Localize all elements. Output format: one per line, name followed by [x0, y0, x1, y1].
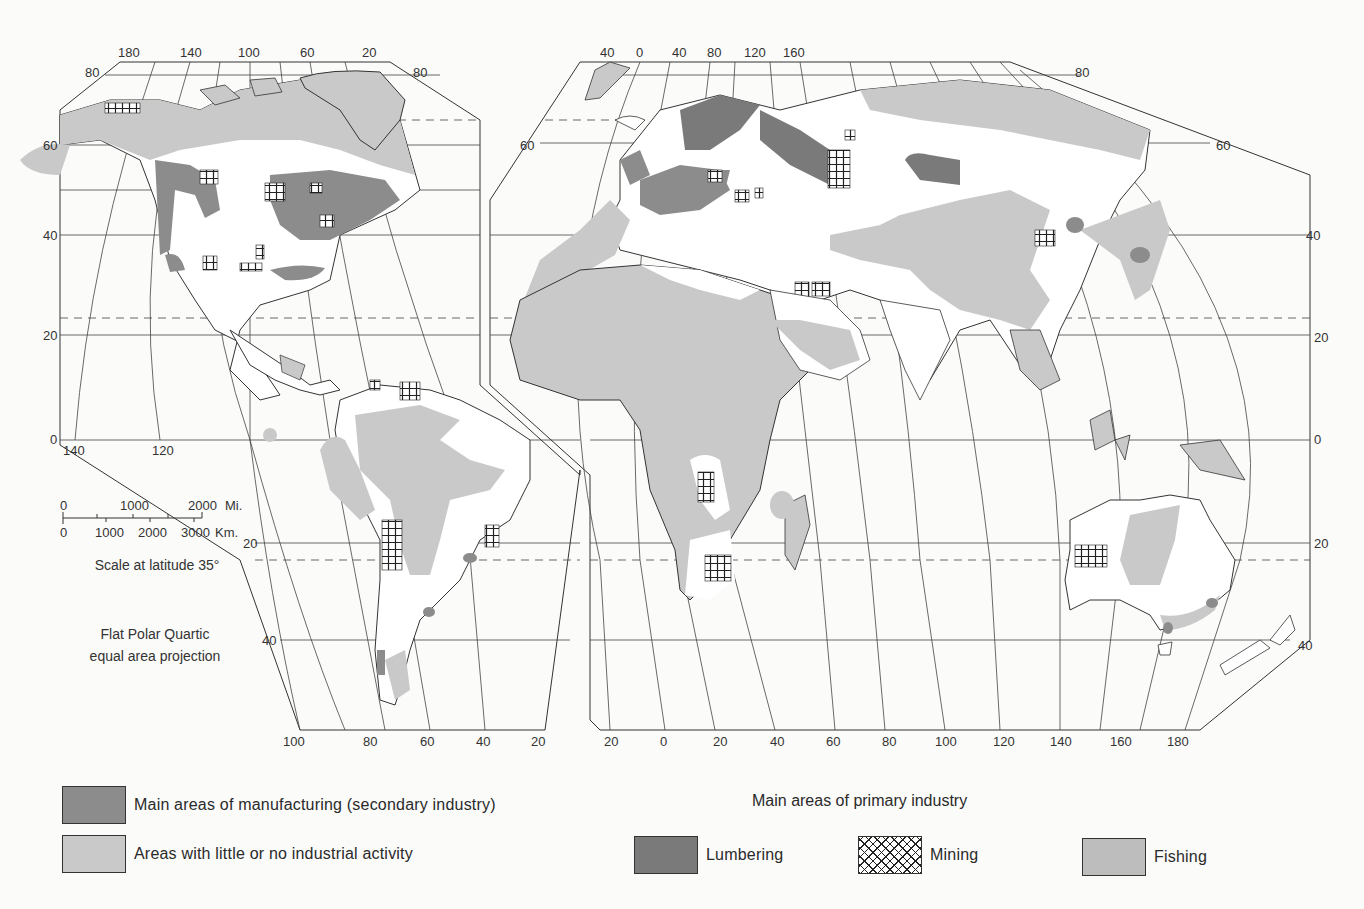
lon-label: 40 — [600, 45, 614, 60]
lon-label: 120 — [152, 443, 174, 458]
lon-label: 180 — [118, 45, 140, 60]
lat-label: 20 — [43, 328, 57, 343]
lon-label: 80 — [882, 734, 896, 749]
lon-label: 160 — [783, 45, 805, 60]
mining-swatch — [858, 836, 922, 874]
lat-label: 40 — [1298, 638, 1312, 653]
lon-label: 140 — [180, 45, 202, 60]
lon-label: 120 — [744, 45, 766, 60]
lon-label: 40 — [672, 45, 686, 60]
primary-industry-heading: Main areas of primary industry — [752, 792, 967, 810]
lon-label: 60 — [420, 734, 434, 749]
legend-label: Lumbering — [706, 846, 783, 864]
lon-label: 0 — [660, 734, 667, 749]
lon-label: 40 — [476, 734, 490, 749]
lat-label: 40 — [1306, 228, 1320, 243]
scale-mi-unit: Mi. — [225, 498, 242, 513]
lon-label: 60 — [300, 45, 314, 60]
lat-label: 60 — [520, 138, 534, 153]
legend-item-manufacturing: Main areas of manufacturing (secondary i… — [62, 786, 496, 824]
scale-mi-tick: 0 — [60, 498, 67, 513]
legend-item-fishing: Fishing — [1082, 838, 1207, 876]
legend-item-little-activity: Areas with little or no industrial activ… — [62, 835, 413, 873]
lon-label: 40 — [770, 734, 784, 749]
lon-label: 20 — [604, 734, 618, 749]
scale-km-unit: Km. — [215, 525, 238, 540]
legend-item-mining: Mining — [858, 836, 978, 874]
lon-label: 120 — [993, 734, 1015, 749]
projection-note-line2: equal area projection — [70, 648, 240, 664]
lat-label: 80 — [85, 65, 99, 80]
lon-label: 0 — [636, 45, 643, 60]
lat-label: 20 — [243, 536, 257, 551]
scale-km-tick: 0 — [60, 525, 67, 540]
lon-label: 80 — [363, 734, 377, 749]
lat-label: 40 — [262, 633, 276, 648]
lon-label: 60 — [826, 734, 840, 749]
legend-label: Fishing — [1154, 848, 1207, 866]
manufacturing-swatch — [62, 786, 126, 824]
scale-km-tick: 1000 — [95, 525, 124, 540]
scale-bar: 0 1000 2000 Mi. 0 1000 2000 3000 Km. — [60, 498, 242, 540]
east-panel — [490, 62, 1310, 730]
little-activity-swatch — [62, 835, 126, 873]
lat-label: 60 — [43, 138, 57, 153]
lat-label: 40 — [43, 228, 57, 243]
legend-item-lumbering: Lumbering — [634, 836, 783, 874]
lon-label: 100 — [935, 734, 957, 749]
scale-mi-tick: 1000 — [120, 498, 149, 513]
scale-caption: Scale at latitude 35° — [72, 557, 242, 573]
legend-label: Main areas of manufacturing (secondary i… — [134, 796, 496, 814]
lat-label: 80 — [413, 65, 427, 80]
scale-km-tick: 2000 — [138, 525, 167, 540]
lon-label: 20 — [713, 734, 727, 749]
lat-label: 20 — [1314, 536, 1328, 551]
legend-label: Areas with little or no industrial activ… — [134, 845, 413, 863]
lon-label: 140 — [1050, 734, 1072, 749]
lon-label: 100 — [238, 45, 260, 60]
lat-label: 0 — [1314, 432, 1321, 447]
world-industry-map: 180 140 100 60 20 80 80 60 40 20 0 140 1… — [0, 0, 1364, 760]
lon-label: 100 — [283, 734, 305, 749]
lat-label: 20 — [1314, 330, 1328, 345]
lat-label: 60 — [1216, 138, 1230, 153]
scale-km-tick: 3000 — [181, 525, 210, 540]
projection-note-line1: Flat Polar Quartic — [70, 626, 240, 642]
lon-label: 20 — [531, 734, 545, 749]
lon-label: 20 — [362, 45, 376, 60]
lumbering-swatch — [634, 836, 698, 874]
lon-label: 80 — [707, 45, 721, 60]
lon-label: 180 — [1167, 734, 1189, 749]
legend-label: Mining — [930, 846, 978, 864]
lon-label: 160 — [1110, 734, 1132, 749]
scale-mi-tick: 2000 — [188, 498, 217, 513]
lat-label: 0 — [50, 432, 57, 447]
lat-label: 80 — [1075, 65, 1089, 80]
lon-label: 140 — [63, 443, 85, 458]
fishing-swatch — [1082, 838, 1146, 876]
